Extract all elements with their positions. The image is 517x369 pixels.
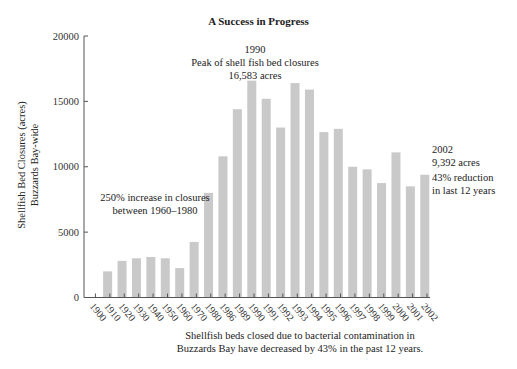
bar-1991 — [262, 99, 271, 298]
bar-1910 — [103, 271, 112, 297]
bar-2002 — [420, 175, 429, 298]
annotation-increase-line-1: 250% increase in closures — [88, 191, 222, 204]
bar-1999 — [377, 183, 386, 297]
bar-1994 — [305, 90, 314, 298]
bars — [103, 81, 429, 298]
annotation-peak: 1990 Peak of shell fish bed closures 16,… — [160, 43, 350, 82]
bar-1995 — [319, 132, 328, 297]
annotation-peak-text: Peak of shell fish bed closures — [160, 56, 350, 69]
annotation-peak-year: 1990 — [160, 43, 350, 56]
bar-1997 — [348, 167, 357, 298]
bar-1986 — [218, 156, 227, 297]
bar-1998 — [363, 169, 372, 297]
bar-1989 — [233, 109, 242, 297]
y-tick-label: 20000 — [53, 31, 79, 42]
annotation-increase: 250% increase in closures between 1960–1… — [88, 191, 222, 217]
annotation-reduction-line-1: 43% reduction — [432, 171, 495, 184]
annotation-2002-value: 9,392 acres — [420, 156, 480, 169]
annotation-reduction: 43% reduction in last 12 years — [432, 171, 495, 197]
bar-1996 — [334, 129, 343, 298]
annotation-peak-value: 16,583 acres — [160, 69, 350, 82]
bar-1960 — [175, 268, 184, 297]
annotation-2002-year: 2002 — [420, 143, 480, 156]
bar-1940 — [146, 257, 155, 298]
bar-1993 — [291, 83, 300, 297]
y-tick-label: 10000 — [53, 161, 79, 172]
y-tick-label: 15000 — [53, 96, 79, 107]
y-tick-label: 0 — [74, 292, 79, 303]
chart-caption: Shellfish beds closed due to bacterial c… — [150, 329, 450, 355]
bar-2000 — [391, 152, 400, 297]
bar-2001 — [406, 186, 415, 297]
y-axis: 05000100001500020000 — [53, 31, 88, 304]
bar-1970 — [190, 242, 199, 298]
bar-1992 — [276, 128, 285, 298]
caption-line-2: Buzzards Bay have decreased by 43% in th… — [150, 342, 450, 355]
annotation-reduction-line-2: in last 12 years — [432, 184, 495, 197]
annotation-increase-line-2: between 1960–1980 — [88, 204, 222, 217]
caption-line-1: Shellfish beds closed due to bacterial c… — [150, 329, 450, 342]
bar-1930 — [132, 258, 141, 297]
bar-1950 — [161, 258, 170, 297]
y-tick-label: 5000 — [58, 227, 79, 238]
bar-1920 — [118, 261, 127, 298]
annotation-2002: 2002 9,392 acres — [420, 143, 480, 169]
x-axis: 1900191019201930194019501960197019801986… — [84, 294, 441, 324]
bar-1990 — [247, 81, 256, 298]
